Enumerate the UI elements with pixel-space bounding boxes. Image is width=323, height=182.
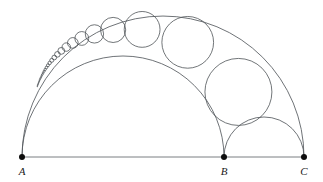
arbelos-figure: ABC [0,0,323,182]
arbelos-diagram: ABC [0,0,323,182]
pappus-circle-2 [162,16,214,68]
semicircle-AB [22,56,224,157]
pappus-circle-1 [205,58,272,125]
semicircle-group [22,16,304,157]
pappus-circle-4 [101,17,126,42]
semicircle-AC [22,16,304,157]
pappus-circle-11 [52,55,57,60]
vertex-dot-b [221,154,227,160]
pappus-chain-group [37,11,272,125]
vertex-label-a: A [18,165,26,177]
pappus-circle-30 [37,86,38,87]
pappus-circle-10 [55,52,61,58]
pappus-circle-3 [124,11,160,47]
vertex-dot-c [301,154,307,160]
semicircle-BC [224,117,304,157]
vertex-dot-a [19,154,25,160]
vertex-label-b: B [221,165,228,177]
vertex-label-c: C [300,165,308,177]
